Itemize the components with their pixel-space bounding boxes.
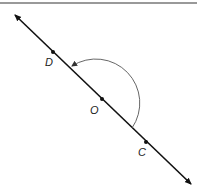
point-o — [100, 97, 104, 101]
point-c — [144, 140, 148, 144]
point-d — [51, 50, 55, 54]
label-d: D — [45, 56, 53, 68]
label-o: O — [90, 104, 99, 116]
label-c: C — [138, 146, 146, 158]
diagram-canvas: D O C — [0, 0, 197, 192]
angle-arc-cod — [72, 59, 140, 128]
